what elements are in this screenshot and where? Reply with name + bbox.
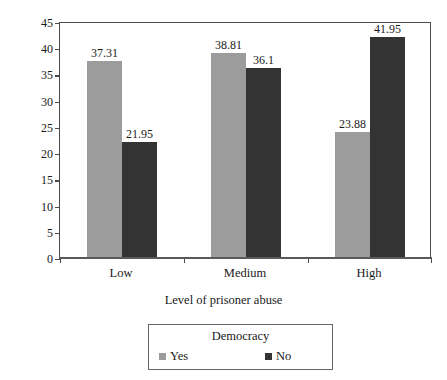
y-axis-tick-label: 45 [41, 17, 53, 29]
x-axis-label-high: High [357, 266, 382, 281]
bar-chart-figure: Percent of captor states 051015202530354… [0, 0, 447, 380]
x-axis-title: Level of prisoner abuse [0, 293, 447, 308]
legend-label-yes: Yes [170, 348, 188, 364]
y-axis-tick-label: 15 [41, 174, 53, 186]
bar-high-no [370, 37, 405, 257]
y-axis-tick-label: 5 [47, 227, 53, 239]
y-axis-tick-label: 25 [41, 122, 53, 134]
bar-high-yes [335, 132, 370, 257]
legend-label-no: No [276, 348, 291, 364]
axis-baseline [59, 257, 432, 259]
legend-swatch-no-icon [265, 353, 272, 360]
legend-swatch-yes-icon [159, 353, 166, 360]
y-axis-tick-label: 35 [41, 69, 53, 81]
y-axis-tick-label: 10 [41, 201, 53, 213]
bar-value-label: 23.88 [339, 118, 366, 131]
bar-medium-no [246, 68, 281, 257]
y-axis-tick [55, 154, 60, 155]
y-axis-tick [55, 102, 60, 103]
x-axis-label-medium: Medium [224, 266, 266, 281]
legend-item-no: No [265, 348, 291, 364]
legend-item-yes: Yes [159, 348, 188, 364]
y-axis-tick [55, 49, 60, 50]
y-axis-tick [55, 233, 60, 234]
x-axis-label-low: Low [110, 266, 133, 281]
bar-value-label: 41.95 [374, 23, 401, 36]
legend: Democracy Yes No [148, 324, 333, 370]
y-axis-tick [55, 207, 60, 208]
y-axis-tick-label: 30 [41, 96, 53, 108]
bar-medium-yes [211, 53, 246, 257]
legend-title: Democracy [149, 328, 332, 344]
y-axis-tick-label: 20 [41, 148, 53, 160]
plot-area: 051015202530354045 37.3121.9538.8136.123… [59, 22, 431, 258]
bar-value-label: 21.95 [126, 128, 153, 141]
y-axis-tick-label: 0 [47, 253, 53, 265]
bar-value-label: 37.31 [91, 47, 118, 60]
bar-low-yes [87, 61, 122, 257]
y-axis-tick [55, 23, 60, 24]
y-axis-tick-label: 40 [41, 43, 53, 55]
y-axis-tick [55, 128, 60, 129]
y-axis-title: Percent of captor states [8, 0, 26, 58]
y-axis-tick [55, 75, 60, 76]
bar-value-label: 38.81 [215, 39, 242, 52]
bar-value-label: 36.1 [253, 54, 274, 67]
bar-low-no [122, 142, 157, 257]
y-axis-tick [55, 180, 60, 181]
